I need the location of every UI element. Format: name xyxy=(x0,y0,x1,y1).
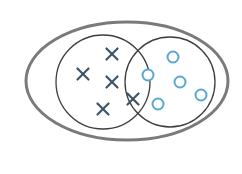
circle-marker-icon xyxy=(153,99,164,110)
cross-marker-icon xyxy=(128,94,139,105)
sets-group xyxy=(56,35,215,129)
cross-marker-icon xyxy=(107,77,118,88)
circle-markers-group xyxy=(143,52,207,110)
venn-diagram xyxy=(0,0,242,174)
cross-marker-icon xyxy=(107,49,118,60)
circle-marker-icon xyxy=(143,70,154,81)
cross-marker-icon xyxy=(78,69,89,80)
circle-marker-icon xyxy=(196,90,207,101)
cross-marker-icon xyxy=(98,104,109,115)
set-a-circle xyxy=(56,35,150,129)
set-b-circle xyxy=(125,37,215,127)
circle-marker-icon xyxy=(175,77,186,88)
cross-markers-group xyxy=(78,49,139,115)
circle-marker-icon xyxy=(168,52,179,63)
